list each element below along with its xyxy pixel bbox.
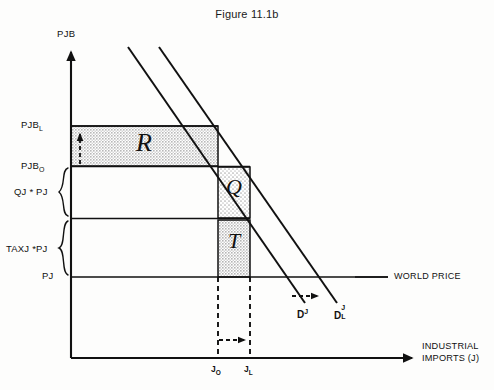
brace-qj-pj [59, 168, 68, 216]
x-axis-title-line2: IMPORTS (J) [422, 353, 479, 365]
region-label-r: R [118, 128, 170, 158]
region-label-t: T [215, 228, 253, 254]
x-label-j-l-sub: L [249, 369, 253, 376]
demand-liberal-sup: J [341, 304, 345, 311]
demand-curve-original-label: DJ [297, 308, 308, 320]
world-price-label: WORLD PRICE [394, 271, 461, 281]
y-label-pj: PJ [42, 270, 54, 281]
x-label-j-o: JO [211, 364, 221, 376]
figure-canvas: Figure 11.1b [0, 0, 494, 390]
demand-liberal-sub: L [341, 313, 345, 320]
x-label-j-l: JL [244, 364, 253, 376]
brace-taxj-pj [59, 221, 68, 275]
demand-curve-liberalized-label: DJL [334, 308, 346, 321]
y-label-pjb-l: PJBL [21, 119, 43, 132]
y-label-pjb-o: PJBO [21, 160, 45, 173]
y-label-qj-pj: QJ * PJ [14, 186, 48, 197]
demand-original-sup: J [304, 308, 308, 315]
demand-liberal-base: D [334, 310, 341, 321]
x-label-j-o-sub: O [216, 369, 221, 376]
y-label-pjb-o-sub: O [39, 166, 45, 173]
x-axis-title-line1: INDUSTRIAL [422, 341, 479, 353]
y-label-taxj-pj: TAXJ *PJ [6, 243, 48, 254]
y-axis-title: PJB [57, 28, 75, 39]
y-label-pjb-l-base: PJB [21, 119, 39, 130]
region-label-q: Q [215, 174, 253, 200]
y-label-pjb-o-base: PJB [21, 160, 39, 171]
x-axis-title: INDUSTRIAL IMPORTS (J) [422, 341, 479, 364]
demand-liberal-affix: JL [341, 308, 346, 319]
y-label-pjb-l-sub: L [39, 125, 43, 132]
